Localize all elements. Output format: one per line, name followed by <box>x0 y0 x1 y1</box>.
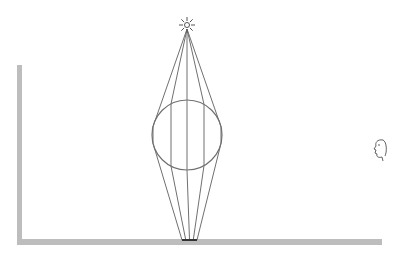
light-rays <box>153 29 221 240</box>
light-ray <box>171 29 187 240</box>
light-ray <box>187 29 204 240</box>
face-profile-icon <box>374 140 386 161</box>
wall <box>17 65 22 245</box>
sun-icon <box>179 17 195 33</box>
light-ray <box>187 29 190 240</box>
optics-diagram <box>0 0 409 255</box>
light-ray <box>153 29 187 240</box>
floor <box>17 239 382 245</box>
focus-spot <box>182 239 197 241</box>
diagram-canvas <box>0 0 409 255</box>
